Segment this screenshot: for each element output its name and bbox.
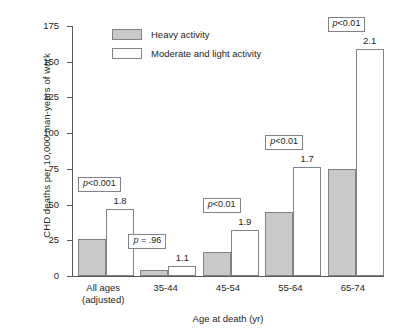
y-tick-label: 75 [31, 163, 59, 174]
chart-legend: Heavy activity Moderate and light activi… [112, 26, 261, 64]
rate-ratio-label: 2.1 [342, 35, 394, 46]
p-value-box: p<0.01 [265, 135, 303, 150]
y-tick-label: 50 [31, 199, 59, 210]
bar-moderate-light-activity [356, 49, 384, 276]
bar-heavy-activity [78, 239, 106, 276]
bar-group: 2.1p<0.01 [322, 26, 384, 276]
legend-item-moderate: Moderate and light activity [112, 45, 261, 61]
legend-swatch-moderate-icon [112, 48, 142, 59]
x-category-label: 65-74 [313, 282, 393, 294]
p-value-box: p<0.01 [328, 17, 366, 32]
legend-swatch-heavy-icon [112, 29, 142, 40]
y-tick: 0 [67, 276, 72, 277]
bar-heavy-activity [140, 270, 168, 276]
p-value-box: p = .96 [128, 234, 166, 249]
p-value-box: p<0.01 [203, 198, 241, 213]
bar-heavy-activity [328, 169, 356, 276]
bar-moderate-light-activity [168, 266, 196, 276]
y-tick-label: 0 [31, 270, 59, 281]
y-tick-label: 175 [31, 20, 59, 31]
bar-heavy-activity [203, 252, 231, 276]
legend-item-heavy: Heavy activity [112, 26, 261, 42]
y-tick-label: 150 [31, 56, 59, 67]
bar-moderate-light-activity [293, 167, 321, 276]
bar-moderate-light-activity [231, 230, 259, 276]
legend-label-moderate: Moderate and light activity [151, 48, 261, 59]
bar-group: 1.7p<0.01 [259, 26, 321, 276]
x-axis-title: Age at death (yr) [72, 313, 384, 324]
bar-heavy-activity [265, 212, 293, 276]
x-axis-category-labels: All ages(adjusted)35-4445-5455-6465-74 [72, 282, 384, 316]
chd-activity-bar-chart: CHD deaths per 10,000 man-years of work … [0, 0, 394, 333]
x-axis-line [72, 276, 384, 277]
y-tick-label: 100 [31, 127, 59, 138]
p-value-box: p<0.001 [78, 177, 121, 192]
legend-label-heavy: Heavy activity [151, 29, 210, 40]
y-tick-label: 125 [31, 91, 59, 102]
y-tick-label: 25 [31, 234, 59, 245]
